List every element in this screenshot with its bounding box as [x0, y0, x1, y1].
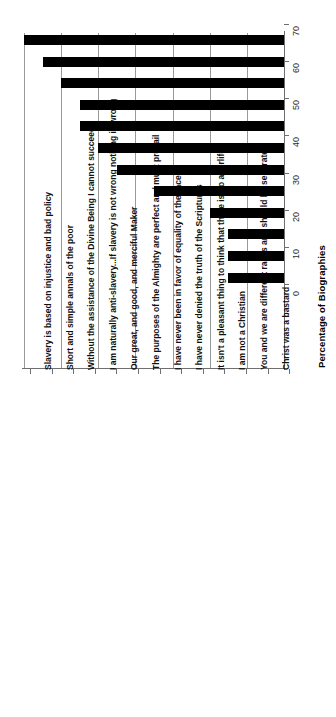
bar [117, 165, 284, 175]
bar [80, 100, 284, 110]
bar [61, 78, 284, 88]
bar [228, 229, 284, 239]
bar [228, 273, 284, 283]
bar [154, 186, 284, 196]
bar [24, 35, 284, 45]
bars-group [0, 0, 336, 717]
bar [210, 208, 284, 218]
bar [80, 121, 284, 131]
bar [98, 143, 284, 153]
bar [43, 57, 284, 67]
bar [228, 251, 284, 261]
bar-chart-figure: 010203040506070 Percentage of Biographie… [0, 0, 336, 717]
